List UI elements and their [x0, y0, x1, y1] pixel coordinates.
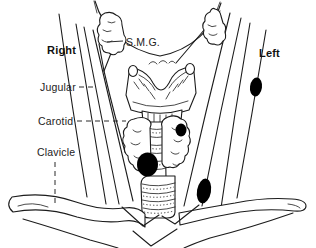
label-jugular: Jugular: [40, 81, 76, 93]
left-clavicle-bone: [179, 199, 306, 226]
neck-anatomy-diagram: Right Left S.M.G. Jugular Carotid Clavic…: [0, 0, 316, 248]
left-submandibular-gland: [203, 8, 226, 45]
left-thyroid-lobe: [162, 116, 191, 168]
label-right: Right: [47, 44, 76, 56]
neck-anatomy-figure: Right Left S.M.G. Jugular Carotid Clavic…: [0, 0, 316, 248]
hyoid-bumps: [149, 61, 175, 65]
right-thyroid-nodule: [137, 153, 158, 177]
right-clavicle-bone: [9, 195, 145, 227]
right-superior-horn: [186, 64, 195, 75]
label-left: Left: [259, 47, 280, 59]
thyroid-cartilage: [126, 64, 196, 115]
left-superior-horn: [129, 66, 138, 77]
label-carotid: Carotid: [38, 115, 73, 127]
label-smg: S.M.G.: [126, 36, 160, 48]
right-submandibular-gland: [97, 12, 126, 54]
label-clavicle: Clavicle: [37, 146, 75, 158]
left-jugular-node: [249, 77, 264, 97]
trachea-lower: [141, 176, 175, 218]
right-carotid-artery-line: [104, 71, 125, 152]
left-paratracheal-node: [195, 177, 213, 204]
left-thyroid-nodule: [176, 124, 187, 137]
